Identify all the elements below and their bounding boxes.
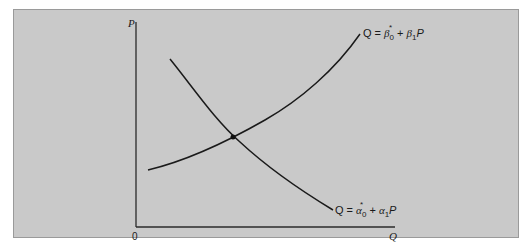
equilibrium-point (231, 135, 236, 140)
svg-text:*: * (389, 23, 392, 32)
svg-text:Q = α0 + α1P: Q = α0 + α1P (335, 204, 397, 219)
x-axis-label: Q (389, 230, 397, 242)
svg-text:*: * (360, 200, 363, 209)
origin-label: 0 (132, 231, 138, 242)
demand-curve (170, 59, 333, 210)
supply-curve-label: Q = β0 + β1P * (363, 23, 425, 42)
y-axis-label: P (127, 17, 135, 29)
supply-demand-chart: P Q 0 Q = β0 + β1P * Q = α0 + α1P * (0, 0, 530, 251)
svg-text:Q = β0 + β1P: Q = β0 + β1P (363, 27, 425, 42)
demand-curve-label: Q = α0 + α1P * (335, 200, 397, 219)
supply-curve (148, 34, 360, 170)
